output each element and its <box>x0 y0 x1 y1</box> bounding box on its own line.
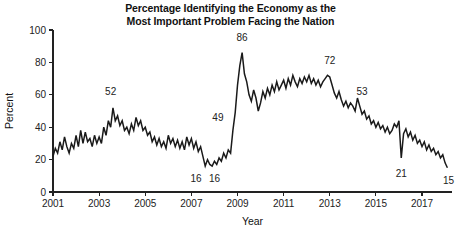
x-tick-label: 2013 <box>319 198 342 209</box>
x-tick-label: 2011 <box>273 198 295 209</box>
y-tick-label: 100 <box>29 25 46 36</box>
series-group <box>53 53 447 168</box>
chart-figure: Percentage Identifying the Economy as th… <box>0 0 461 234</box>
y-tick-label: 40 <box>35 122 47 133</box>
y-tick-label: 0 <box>40 187 46 198</box>
y-axis-group: 020406080100 <box>29 25 53 198</box>
x-tick-label: 2001 <box>42 198 65 209</box>
y-tick-label: 80 <box>35 57 47 68</box>
x-tick-label: 2007 <box>180 198 203 209</box>
line-chart-canvas: 020406080100 200120032005200720092011201… <box>0 0 461 234</box>
y-tick-label: 60 <box>35 89 47 100</box>
x-tick-label: 2003 <box>88 198 111 209</box>
data-point-annotation: 21 <box>396 168 408 179</box>
data-point-annotation: 49 <box>212 112 224 123</box>
y-axis-ticks: 020406080100 <box>29 25 53 198</box>
x-tick-label: 2015 <box>365 198 388 209</box>
x-tick-label: 2017 <box>411 198 434 209</box>
data-point-annotation: 16 <box>209 173 221 184</box>
x-tick-label: 2005 <box>134 198 157 209</box>
x-axis-ticks: 200120032005200720092011201320152017 <box>42 192 434 209</box>
data-point-annotation: 15 <box>443 175 455 186</box>
y-tick-label: 20 <box>35 154 47 165</box>
x-axis-title: Year <box>242 215 264 227</box>
series-line <box>53 53 447 168</box>
x-tick-label: 2009 <box>226 198 249 209</box>
data-point-annotation: 86 <box>237 32 249 43</box>
annotation-group: 521616498672532115 <box>105 32 454 186</box>
data-point-annotation: 72 <box>324 55 336 66</box>
x-axis-group: 200120032005200720092011201320152017 <box>42 192 452 209</box>
data-point-annotation: 53 <box>356 86 368 97</box>
data-point-annotation: 16 <box>190 173 202 184</box>
data-point-annotation: 52 <box>105 86 117 97</box>
y-axis-title: Percent <box>3 93 15 129</box>
